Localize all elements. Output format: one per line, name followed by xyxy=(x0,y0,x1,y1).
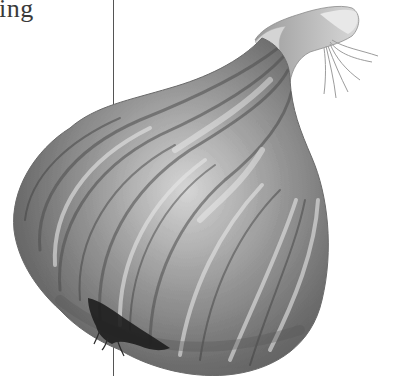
document-page: ing xyxy=(0,0,398,376)
garlic-bulb-image xyxy=(0,0,398,376)
